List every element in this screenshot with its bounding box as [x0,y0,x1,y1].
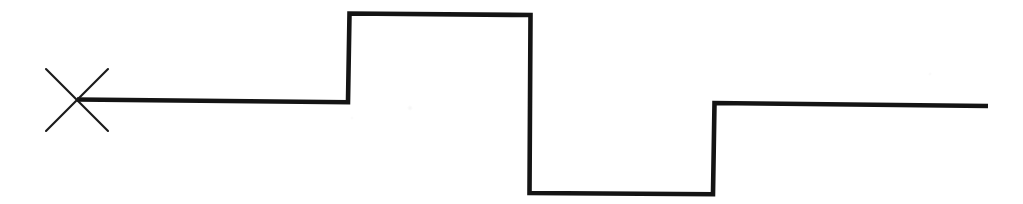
waveform-canvas [0,0,1023,204]
step-waveform-figure [0,0,1023,204]
